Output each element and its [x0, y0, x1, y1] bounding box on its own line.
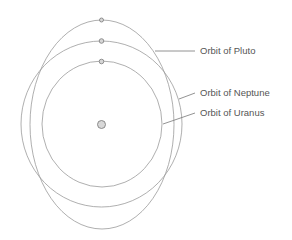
pluto-orbit-label: Orbit of Pluto — [200, 46, 255, 56]
sun-icon — [98, 121, 106, 129]
pluto-planet-icon — [100, 18, 104, 22]
uranus-planet-icon — [99, 59, 104, 64]
uranus-orbit-label: Orbit of Uranus — [200, 108, 264, 118]
uranus-leader-line — [163, 113, 195, 124]
neptune-leader-line — [179, 93, 195, 99]
neptune-planet-icon — [99, 39, 104, 44]
orbits-diagram — [0, 0, 292, 240]
neptune-orbit-label: Orbit of Neptune — [200, 88, 270, 98]
